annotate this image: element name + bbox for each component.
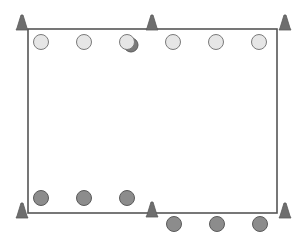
light-player-icon: [252, 35, 267, 50]
light-player-icon: [120, 35, 135, 50]
dark-player-icon: [167, 217, 182, 232]
drill-diagram: [0, 0, 307, 243]
field-canvas: [0, 0, 307, 243]
light-player-icon: [34, 35, 49, 50]
dark-player-icon: [120, 191, 135, 206]
light-player-icon: [166, 35, 181, 50]
dark-player-icon: [77, 191, 92, 206]
dark-player-icon: [253, 217, 268, 232]
light-player-icon: [209, 35, 224, 50]
light-player-icon: [77, 35, 92, 50]
dark-player-icon: [34, 191, 49, 206]
dark-player-icon: [210, 217, 225, 232]
